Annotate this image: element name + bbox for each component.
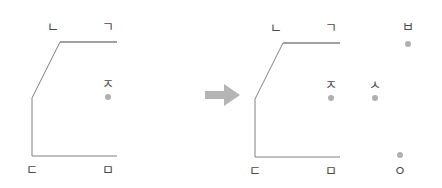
marker-digeut: ㄷ xyxy=(244,164,266,177)
before-panel: ㄴㄱㅈㄷㅁ xyxy=(0,0,200,188)
diagram-canvas: ㄴㄱㅈㄷㅁ ㄴㄱㅂㅈㅅㄷㅁㅇ xyxy=(0,0,442,188)
zigzag-polyline xyxy=(255,43,340,157)
marker-siot-dot xyxy=(372,95,378,101)
marker-giyeok: ㄱ xyxy=(97,20,119,33)
marker-giyeok: ㄱ xyxy=(320,21,342,34)
marker-jieut: ㅈ xyxy=(97,77,119,90)
marker-mieum: ㅁ xyxy=(97,163,119,176)
zigzag-polyline xyxy=(32,42,117,156)
marker-nieun: ㄴ xyxy=(42,20,64,33)
marker-ieung-dot xyxy=(397,152,403,158)
marker-digeut: ㄷ xyxy=(21,163,43,176)
marker-bieup-dot xyxy=(405,41,411,47)
marker-jieut-dot xyxy=(105,94,111,100)
marker-nieun: ㄴ xyxy=(265,21,287,34)
marker-siot: ㅅ xyxy=(364,78,386,91)
marker-mieum: ㅁ xyxy=(320,164,342,177)
after-panel: ㄴㄱㅂㅈㅅㄷㅁㅇ xyxy=(221,0,442,188)
marker-jieut-dot xyxy=(328,95,334,101)
marker-bieup: ㅂ xyxy=(397,20,419,33)
marker-jieut: ㅈ xyxy=(320,78,342,91)
marker-ieung: ㅇ xyxy=(389,164,411,177)
